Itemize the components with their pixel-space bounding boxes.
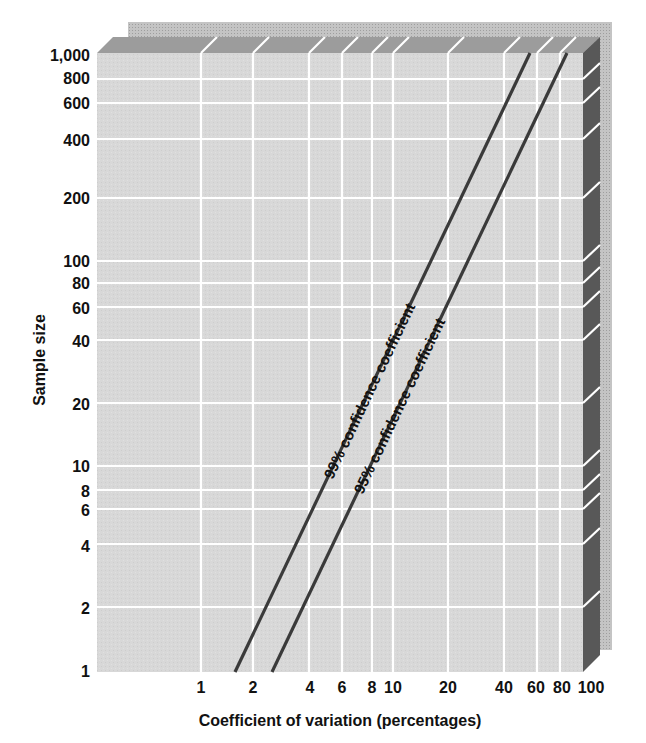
x-tick-2: 2 [249, 679, 258, 697]
y-tick-10: 10 [72, 458, 90, 476]
plot-area [97, 53, 583, 672]
x-tick-1: 1 [197, 679, 206, 697]
y-tick-400: 400 [63, 132, 90, 150]
y-tick-100: 100 [63, 253, 90, 271]
chart-graphic [0, 0, 646, 743]
y-tick-40: 40 [72, 333, 90, 351]
x-tick-6: 6 [338, 679, 347, 697]
x-tick-10: 10 [384, 679, 402, 697]
x-tick-40: 40 [495, 679, 513, 697]
x-tick-80: 80 [553, 679, 571, 697]
y-tick-8: 8 [81, 483, 90, 501]
y-tick-1000: 1,000 [50, 47, 90, 65]
chart: 1,000 800 600 400 200 100 80 60 40 20 10… [0, 0, 646, 743]
y-tick-80: 80 [72, 275, 90, 293]
y-tick-600: 600 [63, 95, 90, 113]
y-tick-20: 20 [72, 396, 90, 414]
y-tick-6: 6 [81, 502, 90, 520]
y-tick-60: 60 [72, 300, 90, 318]
y-tick-2: 2 [81, 600, 90, 618]
y-tick-1: 1 [81, 663, 90, 681]
y-tick-200: 200 [63, 190, 90, 208]
x-tick-8: 8 [368, 679, 377, 697]
y-tick-800: 800 [63, 70, 90, 88]
x-tick-60: 60 [527, 679, 545, 697]
x-tick-4: 4 [306, 679, 315, 697]
y-axis-title: Sample size [31, 314, 49, 406]
y-tick-4: 4 [81, 538, 90, 556]
x-axis-title: Coefficient of variation (percentages) [199, 712, 482, 730]
x-tick-20: 20 [439, 679, 457, 697]
x-tick-100: 100 [578, 679, 605, 697]
